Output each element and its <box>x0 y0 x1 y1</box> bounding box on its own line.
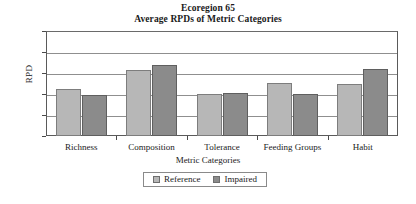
legend-item-reference: Reference <box>153 175 200 184</box>
y-tick-mark <box>42 136 46 137</box>
chart-title: Ecoregion 65 <box>0 3 416 14</box>
bar-reference-feeding-groups <box>267 83 292 136</box>
bar-impaired-composition <box>152 65 177 136</box>
legend-item-impaired: Impaired <box>213 175 256 184</box>
chart-legend: Reference Impaired <box>143 172 267 187</box>
bar-impaired-habit <box>363 69 388 136</box>
bar-reference-tolerance <box>197 94 222 136</box>
legend-swatch-impaired-icon <box>213 176 220 183</box>
legend-swatch-reference-icon <box>153 176 160 183</box>
bar-impaired-feeding-groups <box>293 94 318 136</box>
y-axis-title: RPD <box>24 54 34 94</box>
bar-reference-composition <box>126 70 151 136</box>
chart-figure: Ecoregion 65 Average RPDs of Metric Cate… <box>0 0 416 204</box>
legend-label-reference: Reference <box>164 175 200 184</box>
chart-subtitle: Average RPDs of Metric Categories <box>0 14 416 25</box>
x-tick-mark <box>328 136 329 140</box>
x-tick-label-richness: Richness <box>46 142 116 152</box>
bar-reference-richness <box>56 89 81 136</box>
x-tick-mark <box>187 136 188 140</box>
x-axis-title: Metric Categories <box>0 155 416 165</box>
x-tick-mark <box>116 136 117 140</box>
x-tick-label-feeding-groups: Feeding Groups <box>257 142 327 152</box>
legend-label-impaired: Impaired <box>224 175 256 184</box>
bar-impaired-richness <box>82 95 107 136</box>
bar-series-layer <box>46 31 398 136</box>
x-tick-label-composition: Composition <box>116 142 186 152</box>
chart-title-block: Ecoregion 65 Average RPDs of Metric Cate… <box>0 3 416 25</box>
x-tick-mark <box>257 136 258 140</box>
bar-impaired-tolerance <box>223 93 248 136</box>
bar-reference-habit <box>337 84 362 136</box>
x-tick-label-habit: Habit <box>328 142 398 152</box>
x-tick-label-tolerance: Tolerance <box>187 142 257 152</box>
